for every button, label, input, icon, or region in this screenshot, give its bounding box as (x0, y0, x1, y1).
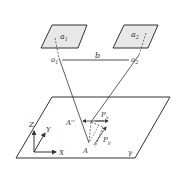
label-baseline: b (95, 51, 100, 60)
label-z-axis: Z (28, 121, 34, 129)
label-o1: o1 (51, 56, 58, 65)
ground-plane (16, 97, 170, 158)
label-a: A (82, 147, 88, 155)
label-a-double-prime: A'' (65, 119, 75, 127)
stereo-geometry-diagram: a1 a2 o1 o2 b A'' A Px Py Z Y X γ (0, 0, 183, 176)
label-x-axis: X (58, 149, 65, 157)
